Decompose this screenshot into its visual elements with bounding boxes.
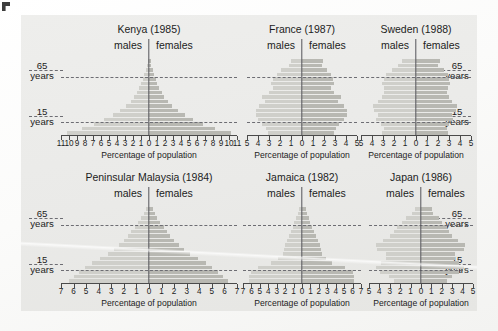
males-label: males bbox=[114, 187, 142, 199]
figure-root: 65 years 15 years 65 years 15 years Keny… bbox=[0, 0, 498, 331]
bar-female bbox=[416, 127, 447, 131]
edge-dash-65-left-bottom bbox=[29, 218, 63, 219]
bar-male bbox=[278, 257, 302, 261]
males-label: males bbox=[114, 39, 142, 51]
bar-female bbox=[302, 68, 327, 72]
pyramid-title: France (1987) bbox=[247, 23, 357, 35]
x-axis-tick-label: 1 bbox=[425, 139, 430, 148]
bar-male bbox=[271, 261, 302, 265]
x-axis-tick-label: 0 bbox=[414, 139, 419, 148]
edge-dash-15-left-bottom bbox=[29, 264, 63, 265]
bar-male bbox=[120, 109, 149, 113]
bar-male bbox=[137, 91, 149, 95]
age-annotation-15-left-bottom: 15 years bbox=[25, 255, 59, 275]
pyramid-row-top: 65 years 15 years 65 years 15 years Keny… bbox=[21, 15, 477, 163]
x-axis-tick-label: 4 bbox=[344, 139, 349, 148]
x-axis-tick-label: 2 bbox=[398, 287, 403, 296]
x-axis-tick-label: 4 bbox=[460, 287, 465, 296]
bar-female bbox=[302, 243, 320, 247]
females-label: females bbox=[156, 39, 193, 51]
x-axis-tick-label: 5 bbox=[367, 287, 372, 296]
bar-female bbox=[149, 113, 185, 117]
bar-male bbox=[79, 270, 149, 274]
bar-female bbox=[302, 91, 334, 95]
bar-female bbox=[149, 230, 167, 234]
plot-area bbox=[361, 55, 471, 135]
x-axis-tick-label: 6 bbox=[99, 139, 104, 148]
edge-dash-65-left-top bbox=[29, 70, 63, 71]
center-zero-line bbox=[148, 39, 149, 135]
x-axis-tick-label: 4 bbox=[370, 139, 375, 148]
bar-male bbox=[384, 127, 416, 131]
bar-female bbox=[416, 104, 457, 108]
bar-male bbox=[265, 100, 302, 104]
bar-male bbox=[114, 248, 149, 252]
bar-female bbox=[149, 91, 162, 95]
x-axis-tick-label: 5 bbox=[258, 287, 263, 296]
bar-female bbox=[416, 95, 449, 99]
age-65-unit: years bbox=[25, 219, 59, 229]
bar-male bbox=[380, 270, 421, 274]
females-label: females bbox=[156, 187, 193, 199]
x-axis-tick-label: 1 bbox=[134, 287, 139, 296]
x-axis-tick-label: 4 bbox=[333, 287, 338, 296]
bar-male bbox=[397, 225, 421, 229]
x-axis-tick-label: 2 bbox=[436, 139, 441, 148]
bar-female bbox=[302, 122, 339, 126]
bar-male bbox=[269, 91, 302, 95]
x-axis-tick-label: 0 bbox=[300, 287, 305, 296]
bar-male bbox=[273, 86, 302, 90]
x-axis-tick-label: 1 bbox=[408, 287, 413, 296]
bar-female bbox=[302, 64, 322, 68]
bar-male bbox=[259, 104, 302, 108]
females-label: females bbox=[309, 187, 346, 199]
bar-female bbox=[302, 113, 347, 117]
x-axis-tick-label: 11 bbox=[233, 139, 242, 148]
center-zero-line bbox=[301, 39, 302, 135]
bar-male bbox=[386, 257, 421, 261]
bar-male bbox=[271, 82, 302, 86]
bar-female bbox=[149, 243, 179, 247]
bar-female bbox=[421, 225, 447, 229]
x-axis-tick-label: 5 bbox=[107, 139, 112, 148]
x-axis-tick-label: 2 bbox=[440, 287, 445, 296]
x-axis-tick-label: 3 bbox=[388, 287, 393, 296]
x-axis-tick-label: 9 bbox=[219, 139, 224, 148]
bar-male bbox=[251, 270, 302, 274]
x-axis-tick-label: 5 bbox=[84, 287, 89, 296]
bar-male bbox=[249, 275, 302, 279]
x-axis-tick-label: 4 bbox=[458, 139, 463, 148]
x-axis-tick-label: 8 bbox=[83, 139, 88, 148]
x-axis-tick-label: 3 bbox=[123, 139, 128, 148]
pyramid-japan: Japan (1986)malesfemales54321012345Perce… bbox=[369, 163, 473, 311]
bar-male bbox=[289, 234, 302, 238]
bar-female bbox=[416, 59, 440, 63]
bar-male bbox=[394, 230, 421, 234]
bar-male bbox=[92, 261, 149, 265]
x-axis-tick-label: 3 bbox=[333, 139, 338, 148]
pyramid-kenya: Kenya (1985)malesfemales1110987654321012… bbox=[61, 15, 237, 163]
pyramid-title: Japan (1986) bbox=[369, 171, 473, 183]
bar-female bbox=[302, 95, 341, 99]
x-axis-tick-label: 9 bbox=[75, 139, 80, 148]
bar-female bbox=[302, 216, 309, 220]
bar-female bbox=[149, 248, 184, 252]
bar-male bbox=[285, 243, 302, 247]
x-axis-tick-label: 5 bbox=[342, 287, 347, 296]
x-axis-tick-label: 1 bbox=[289, 139, 294, 148]
age-annotation-65-left-top: 65 years bbox=[25, 61, 59, 81]
bar-female bbox=[416, 91, 447, 95]
x-axis-tick-label: 6 bbox=[71, 287, 76, 296]
x-axis-tick-label: 5 bbox=[187, 139, 192, 148]
x-axis-title: Percentage of population bbox=[243, 298, 361, 308]
x-axis-title: Percentage of population bbox=[369, 298, 473, 308]
bar-male bbox=[131, 230, 149, 234]
bar-female bbox=[149, 109, 178, 113]
bar-female bbox=[421, 243, 465, 247]
figure-panel: 65 years 15 years 65 years 15 years Keny… bbox=[21, 15, 477, 311]
bar-male bbox=[256, 109, 302, 113]
age-15-unit: years bbox=[25, 265, 59, 275]
x-axis-tick-label: 0 bbox=[300, 139, 305, 148]
x-axis-tick-label: 1 bbox=[291, 287, 296, 296]
bar-female bbox=[149, 234, 170, 238]
